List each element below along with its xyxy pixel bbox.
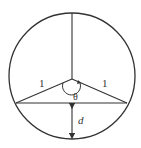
circle-diagram: 1 1 θ d [0,0,141,148]
left-radius-label: 1 [39,77,45,89]
right-radius-label: 1 [102,77,108,89]
angle-arc [63,83,81,95]
angle-label: θ [73,91,78,102]
distance-label: d [78,114,84,126]
